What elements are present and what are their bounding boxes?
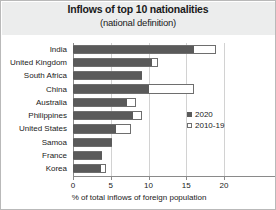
- bar-2020: [73, 139, 112, 146]
- x-axis-tick-label: 0: [58, 181, 88, 190]
- x-axis-tick: [111, 176, 112, 180]
- y-axis-label: United States: [0, 124, 67, 133]
- bar-2020: [73, 112, 133, 119]
- legend-label: 2020: [195, 110, 213, 119]
- legend-item-2020[interactable]: 2020: [187, 109, 233, 120]
- y-axis-label: Samoa: [0, 138, 67, 147]
- bar-2020: [73, 125, 116, 132]
- x-axis-tick: [186, 176, 187, 180]
- x-axis-tick-label: 15: [171, 181, 201, 190]
- x-axis-tick: [73, 176, 74, 180]
- chart-container: Inflows of top 10 nationalities (nationa…: [0, 0, 276, 210]
- x-axis-tick: [149, 176, 150, 180]
- y-axis-label: Australia: [0, 98, 67, 107]
- legend-swatch-icon: [187, 112, 192, 117]
- chart-title: Inflows of top 10 nationalities: [1, 3, 275, 15]
- bar-2020: [73, 59, 152, 66]
- y-axis-label: Korea: [0, 164, 67, 173]
- bar-2020: [73, 152, 102, 159]
- y-axis-label: France: [0, 151, 67, 160]
- chart-subtitle: (national definition): [1, 17, 275, 28]
- legend-label: 2010-19: [195, 121, 224, 130]
- legend-swatch-icon: [187, 123, 192, 128]
- legend: 2020 2010-19: [187, 109, 233, 131]
- bar-2020: [73, 85, 149, 92]
- x-axis-line: [73, 176, 276, 177]
- y-axis-label: China: [0, 85, 67, 94]
- legend-item-2010-19[interactable]: 2010-19: [187, 120, 233, 131]
- y-axis-label: United Kingdom: [0, 58, 67, 67]
- bar-2020: [73, 165, 101, 172]
- y-axis-label: South Africa: [0, 71, 67, 80]
- bar-2020: [73, 99, 127, 106]
- x-axis-title: % of total inflows of foreign population: [1, 193, 276, 202]
- x-axis-tick-label: 5: [96, 181, 126, 190]
- x-axis-tick-label: 20: [209, 181, 239, 190]
- x-axis-tick-label: 10: [134, 181, 164, 190]
- bar-2020: [73, 46, 194, 53]
- bar-2020: [73, 72, 142, 79]
- y-axis-label: India: [0, 45, 67, 54]
- x-axis-tick: [224, 176, 225, 180]
- y-axis-label: Philippines: [0, 111, 67, 120]
